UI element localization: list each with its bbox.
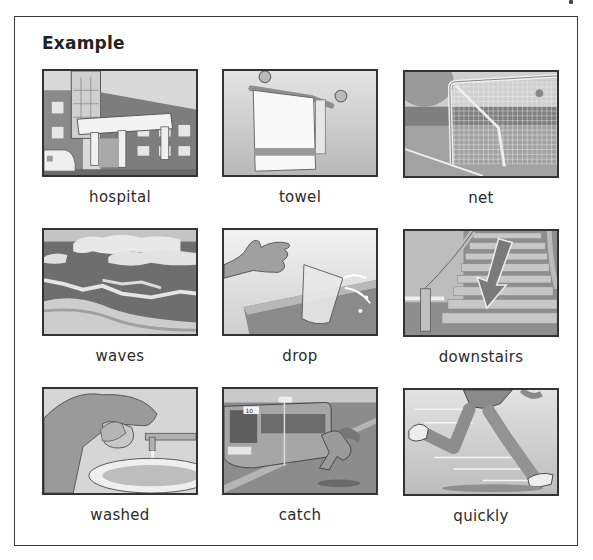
example-heading: Example bbox=[42, 33, 125, 53]
waves-icon bbox=[42, 228, 198, 336]
hospital-icon bbox=[42, 69, 198, 177]
word-label: quickly bbox=[403, 507, 559, 525]
staircase-arrow-icon bbox=[403, 229, 559, 337]
word-label: downstairs bbox=[403, 348, 559, 366]
picture-card-net: net bbox=[403, 70, 559, 207]
picture-card-catch: 10 catch bbox=[222, 387, 378, 524]
picture-card-downstairs: downstairs bbox=[403, 229, 559, 366]
catching-bus-icon: 10 bbox=[222, 387, 378, 495]
picture-card-washed: washed bbox=[42, 387, 198, 524]
washing-face-icon bbox=[42, 387, 198, 495]
picture-card-towel: towel bbox=[222, 69, 378, 206]
word-label: catch bbox=[222, 506, 378, 524]
word-label: washed bbox=[42, 506, 198, 524]
goal-net-icon bbox=[403, 70, 559, 178]
picture-card-quickly: quickly bbox=[403, 388, 559, 525]
running-legs-icon bbox=[403, 388, 559, 496]
word-label: hospital bbox=[42, 188, 198, 206]
picture-card-waves: waves bbox=[42, 228, 198, 365]
svg-text:10: 10 bbox=[245, 408, 253, 414]
word-label: net bbox=[403, 189, 559, 207]
page-corner-mark bbox=[569, 0, 573, 4]
picture-card-drop: drop bbox=[222, 228, 378, 365]
picture-card-hospital: hospital bbox=[42, 69, 198, 206]
dropping-glass-icon bbox=[222, 228, 378, 336]
word-label: waves bbox=[42, 347, 198, 365]
towel-icon bbox=[222, 69, 378, 177]
word-label: drop bbox=[222, 347, 378, 365]
word-label: towel bbox=[222, 188, 378, 206]
